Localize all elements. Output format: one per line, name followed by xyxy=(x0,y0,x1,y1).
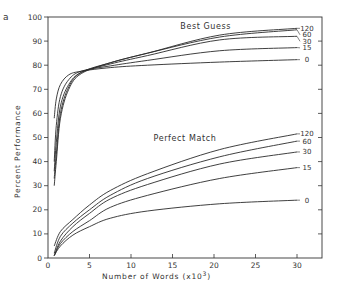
y-axis-label: Percent Performance xyxy=(13,105,22,198)
y-tick-label: 70 xyxy=(32,85,42,94)
series-line xyxy=(54,28,297,185)
x-tick-label: 10 xyxy=(126,261,136,270)
series-label: 0 xyxy=(305,56,309,64)
x-axis-label: Number of Words (x103) xyxy=(102,270,211,281)
series-label: 30 xyxy=(303,148,312,156)
y-tick-label: 80 xyxy=(32,61,42,70)
y-tick-label: 40 xyxy=(32,157,42,166)
x-tick-label: 20 xyxy=(209,261,219,270)
series-line xyxy=(54,48,297,162)
x-tick-label: 15 xyxy=(168,261,178,270)
x-axis-label-main: Number of Words (x10 xyxy=(102,272,203,281)
x-tick-label: 5 xyxy=(87,261,92,270)
x-tick-label: 25 xyxy=(251,261,261,270)
series-line xyxy=(54,134,297,246)
x-axis: 051015202530 xyxy=(46,254,302,270)
series-line xyxy=(54,30,297,179)
series-line xyxy=(54,168,297,256)
series-label: 60 xyxy=(303,138,312,146)
series-label: 15 xyxy=(303,44,312,52)
group-label: Perfect Match xyxy=(154,134,217,143)
series-label: 0 xyxy=(305,197,309,205)
series-label: 15 xyxy=(303,164,312,172)
y-tick-label: 60 xyxy=(32,109,42,118)
series-leader xyxy=(297,36,300,41)
y-tick-label: 10 xyxy=(32,229,42,238)
x-axis-label-close: ) xyxy=(207,272,211,281)
panel-label: a xyxy=(3,12,9,22)
y-tick-label: 90 xyxy=(32,37,42,46)
series-line xyxy=(54,141,297,253)
y-tick-label: 30 xyxy=(32,181,42,190)
y-tick-label: 0 xyxy=(37,254,42,263)
group-label: Best Guess xyxy=(180,22,231,31)
y-tick-label: 100 xyxy=(28,13,43,22)
y-tick-label: 20 xyxy=(32,205,42,214)
y-tick-label: 50 xyxy=(32,133,42,142)
x-tick-label: 30 xyxy=(292,261,302,270)
chart: a 0102030405060708090100 051015202530 Be… xyxy=(0,0,339,292)
x-tick-label: 0 xyxy=(46,261,51,270)
